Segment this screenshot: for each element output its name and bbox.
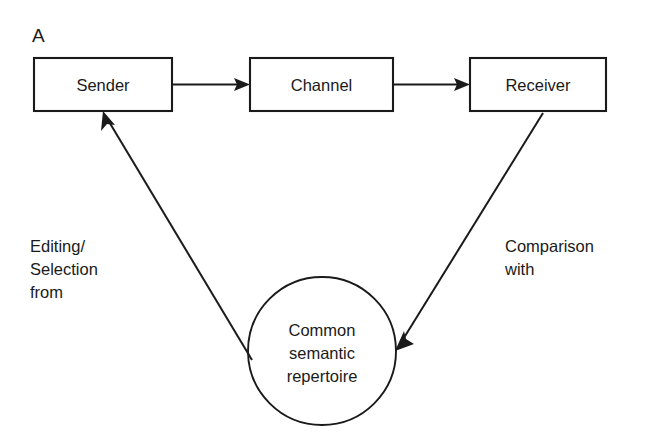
communication-model-diagram: A Sender Channel Receiver Common semanti… <box>0 0 645 447</box>
edge-label-right-line-1: Comparison <box>505 237 594 255</box>
edge-repertoire-to-sender <box>101 111 252 360</box>
figure-root: A Sender Channel Receiver Common semanti… <box>0 0 645 447</box>
edge-label-left-line-2: Selection <box>30 260 98 278</box>
edge-label-right-line-2: with <box>504 260 534 278</box>
edge-label-right: Comparison with <box>504 237 594 278</box>
sender-label: Sender <box>76 76 130 94</box>
channel-label: Channel <box>291 76 352 94</box>
repertoire-label-line-1: Common <box>289 321 356 339</box>
edge-label-left: Editing/ Selection from <box>30 237 98 301</box>
node-channel: Channel <box>250 58 393 111</box>
edge-sender-to-channel <box>172 78 250 91</box>
repertoire-label-line-2: semantic <box>289 344 355 362</box>
repertoire-label-line-3: repertoire <box>287 367 358 385</box>
edge-channel-to-receiver <box>393 78 470 91</box>
panel-label: A <box>32 25 45 46</box>
edge-label-left-line-1: Editing/ <box>30 237 85 255</box>
edge-receiver-to-repertoire-line <box>402 113 543 341</box>
arrowhead-icon <box>395 331 414 351</box>
edge-label-left-line-3: from <box>30 283 63 301</box>
node-sender: Sender <box>34 58 172 111</box>
edge-repertoire-to-sender-line <box>108 120 252 360</box>
node-common-semantic-repertoire: Common semantic repertoire <box>248 277 396 425</box>
edge-receiver-to-repertoire <box>395 113 543 351</box>
receiver-label: Receiver <box>505 76 571 94</box>
node-receiver: Receiver <box>470 58 606 111</box>
